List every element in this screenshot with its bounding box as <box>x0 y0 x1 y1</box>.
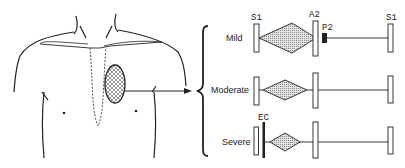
arm-right <box>154 92 156 158</box>
shoulder-right <box>118 30 186 86</box>
marker-p2: P2 <box>322 23 333 33</box>
row-label-moderate: Moderate <box>211 85 249 95</box>
murmur-diamond <box>270 133 300 151</box>
row-moderate: Moderate <box>211 73 393 108</box>
neck-right <box>115 14 118 32</box>
marker-s1-right: S1 <box>386 13 397 23</box>
murmur-area-hatched <box>105 65 125 103</box>
clavicle-left <box>40 42 88 44</box>
a2-sound-bar <box>313 21 318 56</box>
s1-sound-bar-right <box>388 127 393 154</box>
s1-sound-bar-right <box>388 24 393 52</box>
aortic-stenosis-phonocardiogram-diagram: Mild S1 A2 P2 S1 Moderate Severe EC <box>0 0 405 168</box>
row-label-mild: Mild <box>226 33 243 43</box>
torso-illustration <box>14 14 186 158</box>
s1-sound-bar <box>254 127 259 155</box>
row-mild: Mild S1 A2 P2 S1 <box>226 10 397 56</box>
sternum <box>90 48 106 126</box>
right-arrow-icon <box>125 88 192 94</box>
murmur-diamond <box>259 23 316 53</box>
a2-sound-bar <box>313 73 318 108</box>
marker-a2: A2 <box>309 10 320 20</box>
nipple-right <box>135 110 138 113</box>
murmur-diamond <box>263 80 307 100</box>
ejection-click-bar <box>263 122 266 158</box>
curly-brace <box>197 26 208 156</box>
p2-sound-block <box>322 33 327 43</box>
clavicle-right <box>104 41 162 46</box>
s1-sound-bar-right <box>388 76 393 103</box>
marker-ec: EC <box>258 113 269 123</box>
s1-sound-bar <box>254 77 259 105</box>
neck-inner-right <box>106 26 112 38</box>
neck-inner-left <box>80 26 86 38</box>
row-label-severe: Severe <box>222 137 251 147</box>
nipple-left <box>63 112 66 115</box>
marker-s1-left: S1 <box>251 13 262 23</box>
row-severe: Severe EC <box>222 113 393 158</box>
shoulder-left <box>14 32 74 92</box>
neck-left <box>74 16 77 34</box>
clavicle-line <box>40 42 162 48</box>
a2-sound-bar <box>313 122 318 158</box>
arm-left <box>43 92 45 158</box>
